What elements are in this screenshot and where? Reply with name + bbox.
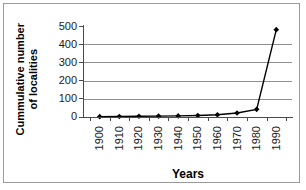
y-tick-label-300: 300 (39, 57, 77, 68)
x-tick-label-1920: 1920 (133, 126, 144, 150)
y-tick-label-400: 400 (39, 39, 77, 50)
data-point-1990 (274, 27, 280, 33)
x-tick-label-1960: 1960 (212, 126, 223, 150)
chart-frame: Cummulative number of localities 500 400… (3, 3, 300, 183)
series-polyline (100, 30, 277, 117)
x-tick-mark-6 (208, 117, 209, 121)
y-tick-label-500: 500 (39, 21, 77, 32)
x-tick-mark-2 (129, 117, 130, 121)
y-tick-label-100: 100 (39, 93, 77, 104)
x-tick-label-1990: 1990 (271, 126, 282, 150)
series-line-cummulative-localities (84, 26, 292, 117)
x-tick-mark-7 (227, 117, 228, 121)
x-tick-mark-9 (267, 117, 268, 121)
x-tick-mark-4 (168, 117, 169, 121)
y-tick-label-200: 200 (39, 75, 77, 86)
series-markers (97, 27, 279, 120)
x-tick-mark-8 (247, 117, 248, 121)
x-tick-mark-0 (90, 117, 91, 121)
plot-area (84, 26, 292, 117)
x-tick-label-1950: 1950 (192, 126, 203, 150)
y-axis-tick-labels: 500 400 300 200 100 0 (39, 4, 79, 190)
x-tick-label-1940: 1940 (173, 126, 184, 150)
data-point-1970 (234, 110, 240, 116)
y-axis-line (83, 25, 84, 118)
y-axis-title-text: Cummulative number of localities (14, 23, 40, 135)
y-tick-label-0: 0 (39, 111, 77, 122)
x-tick-mark-1 (110, 117, 111, 121)
data-point-1980 (254, 107, 260, 113)
x-tick-mark-5 (188, 117, 189, 121)
x-tick-label-1930: 1930 (153, 126, 164, 150)
x-tick-label-1980: 1980 (251, 126, 262, 150)
x-tick-mark-3 (149, 117, 150, 121)
x-tick-label-1900: 1900 (94, 126, 105, 150)
x-tick-label-1970: 1970 (232, 126, 243, 150)
x-tick-label-1910: 1910 (114, 126, 125, 150)
x-axis-title: Years (84, 167, 292, 181)
x-tick-mark-10 (286, 117, 287, 121)
